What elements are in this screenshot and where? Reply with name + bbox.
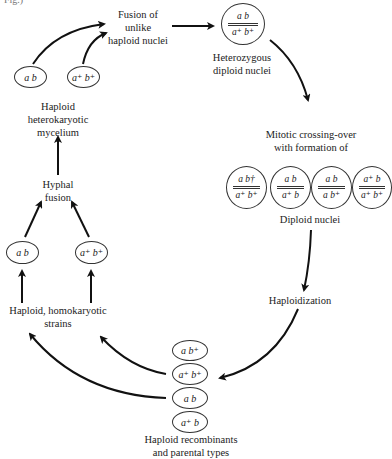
- label-homokaryotic-line1: Haploid, homokaryotic: [9, 304, 106, 317]
- genotype-bottom: a⁺ b⁺: [236, 190, 258, 201]
- genotype-top: a b†: [238, 174, 255, 185]
- heterokaryon-nucleus-a+b+: a⁺ b⁺: [67, 66, 100, 88]
- label-recombinants-line1: Haploid recombinants: [144, 433, 237, 446]
- genotype-top: a⁺ b: [364, 174, 381, 185]
- label-heterokaryotic-line1: Haploid: [28, 100, 89, 113]
- label-recombinants-line2: and parental types: [144, 446, 237, 459]
- label-heterozygous-line2: diploid nuclei: [213, 64, 271, 77]
- chromosome-divider: [228, 23, 257, 26]
- label-recombinants: Haploid recombinants and parental types: [144, 433, 237, 459]
- arrow-oval-left-to-hyphal: [25, 202, 41, 237]
- arrow-diploid-to-mitotic: [270, 40, 308, 100]
- diploid-nucleus-2: a b a⁺ b: [270, 166, 311, 209]
- label-fusion-line3: haploid nuclei: [108, 34, 168, 47]
- genotype-top: a b: [237, 11, 249, 22]
- chromosome-divider: [318, 186, 345, 189]
- arrow-a+b+-to-fusion: [83, 33, 106, 64]
- label-diploid-nuclei: Diploid nuclei: [280, 213, 340, 226]
- chromosome-divider: [277, 186, 304, 189]
- homokaryotic-nucleus-ab: a b: [6, 241, 39, 264]
- genotype-bottom: a⁺ b⁺: [232, 27, 254, 38]
- label-mitotic-line1: Mitotic crossing-over: [266, 128, 357, 141]
- genotype-bottom: a b⁺: [323, 190, 340, 201]
- label-heterokaryotic-line3: mycelium: [28, 126, 89, 139]
- recombinant-nucleus-1: a b⁺: [172, 340, 208, 361]
- label-hyphal-fusion: Hyphal fusion: [43, 178, 74, 204]
- arrow-oval-right-to-hyphal: [72, 202, 89, 237]
- diploid-nucleus-3: a b a b⁺: [311, 166, 352, 209]
- recombinant-nucleus-4: a⁺ b: [172, 411, 208, 433]
- heterokaryon-nucleus-ab: a b: [14, 66, 47, 88]
- arrow-recombinant-to-strain-left: [30, 334, 166, 398]
- genotype-bottom: a⁺ b: [282, 190, 299, 201]
- label-hyphal-line1: Hyphal: [43, 178, 74, 191]
- label-homokaryotic-line2: strains: [9, 317, 106, 330]
- homokaryotic-nucleus-a+b+: a⁺ b⁺: [75, 241, 108, 264]
- label-fusion-line2: unlike: [108, 21, 168, 34]
- label-haploidization: Haploidization: [269, 294, 331, 307]
- chromosome-divider: [233, 186, 260, 189]
- label-mitotic-crossing-over: Mitotic crossing-over with formation of: [266, 128, 357, 154]
- label-fusion-line1: Fusion of: [108, 8, 168, 21]
- label-heterokaryotic-line2: heterokaryotic: [28, 113, 89, 126]
- genotype-bottom: a⁺ b⁺: [361, 190, 383, 201]
- arrow-ab-to-fusion: [33, 24, 104, 64]
- diploid-nucleus-4: a⁺ b a⁺ b⁺: [352, 166, 392, 209]
- arrow-haploidization-to-recombinants: [220, 309, 298, 378]
- genotype-top: a b: [285, 174, 297, 185]
- label-fusion: Fusion of unlike haploid nuclei: [108, 8, 168, 47]
- label-heterozygous-line1: Heterozygous: [213, 51, 271, 64]
- label-heterokaryotic-mycelium: Haploid heterokaryotic mycelium: [28, 100, 89, 139]
- chromosome-divider: [359, 186, 386, 189]
- genotype-top: a b: [326, 174, 338, 185]
- arrow-diploid-to-haploidization: [304, 230, 311, 290]
- recombinant-nucleus-2: a⁺ b⁺: [172, 363, 208, 385]
- recombinant-nucleus-3: a b: [172, 387, 208, 409]
- label-heterozygous: Heterozygous diploid nuclei: [213, 51, 271, 77]
- label-homokaryotic: Haploid, homokaryotic strains: [9, 304, 106, 330]
- heterozygous-nucleus: a b a⁺ b⁺: [221, 3, 265, 45]
- diploid-nucleus-1: a b† a⁺ b⁺: [226, 166, 267, 209]
- arrow-recombinant-to-strain-right: [101, 337, 166, 374]
- label-hyphal-line2: fusion: [43, 191, 74, 204]
- label-mitotic-line2: with formation of: [266, 141, 357, 154]
